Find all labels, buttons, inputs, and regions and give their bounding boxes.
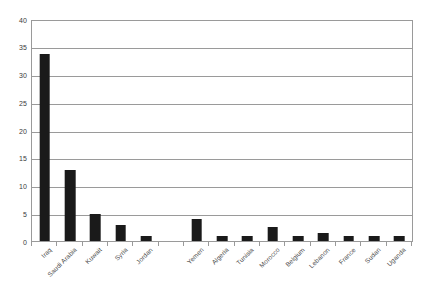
bar-slot [361,21,386,241]
x-axis-label: Lebanon [308,246,331,269]
x-axis-label: Yemen [185,246,204,265]
x-axis-label: Kuwait [84,246,103,265]
bar[interactable] [115,225,126,242]
bar[interactable] [191,219,202,241]
x-axis-label: Iraq [39,246,52,259]
bar-chart: 40 35 30 25 20 15 10 5 0 IraqSaudi Arabi… [0,0,429,293]
y-axis: 40 35 30 25 20 15 10 5 0 [0,0,30,293]
bar-slot [32,21,57,241]
y-tick-label: 40 [1,17,27,24]
bar-slot [108,21,133,241]
x-axis-label: Algeria [210,246,230,266]
x-axis-label: France [337,246,357,266]
bar[interactable] [39,54,50,241]
bar-slot [209,21,234,241]
bar[interactable] [141,236,152,242]
bar-slot [57,21,82,241]
x-axis-label: Belgium [284,246,306,268]
bar-slot [133,21,158,241]
bar-slot [184,21,209,241]
bar-slot [83,21,108,241]
y-tick-label: 20 [1,128,27,135]
x-axis-labels: IraqSaudi ArabiaKuwaitSyriaJordanYemenAl… [31,246,413,293]
bar[interactable] [293,236,304,242]
y-tick-label: 5 [1,211,27,218]
x-axis-label: Morocco [258,246,281,269]
bar-slot [159,21,184,241]
y-tick-label: 15 [1,155,27,162]
bar-slot [311,21,336,241]
bar[interactable] [65,170,76,242]
bar-slot [260,21,285,241]
y-tick-label: 0 [1,239,27,246]
bar-slot [336,21,361,241]
y-tick-label: 25 [1,100,27,107]
x-axis-label: Sudan [363,246,382,265]
bar[interactable] [318,233,329,241]
y-tick-label: 30 [1,72,27,79]
bar[interactable] [242,236,253,242]
bar[interactable] [217,236,228,242]
plot-area [31,20,413,242]
bar-slot [387,21,412,241]
y-tick-label: 35 [1,44,27,51]
bar[interactable] [394,236,405,242]
bar-slot [235,21,260,241]
x-axis-label: Syria [113,246,129,262]
bar[interactable] [90,214,101,242]
bar[interactable] [369,236,380,242]
x-axis-label: Tunisia [235,246,255,266]
bar-slot [285,21,310,241]
y-tick-label: 10 [1,183,27,190]
bar[interactable] [343,236,354,242]
x-axis-label: Jordan [135,246,154,265]
x-axis-label: Uganda [386,246,407,267]
bars-layer [32,21,412,241]
bar[interactable] [267,227,278,241]
